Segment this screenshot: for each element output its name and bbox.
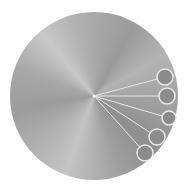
- node-circle-5[interactable]: [137, 145, 153, 161]
- connector-line-3: [94, 96, 162, 116]
- dial-connectors: [0, 0, 190, 192]
- node-circle-4[interactable]: [149, 129, 165, 145]
- node-circle-3[interactable]: [162, 111, 176, 125]
- node-circle-1[interactable]: [157, 69, 173, 85]
- center-hub: [93, 95, 96, 98]
- connector-line-1: [94, 79, 157, 96]
- node-circle-2[interactable]: [159, 88, 175, 104]
